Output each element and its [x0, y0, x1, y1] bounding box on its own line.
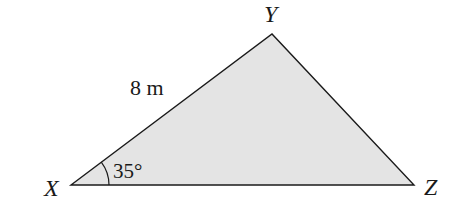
side-label-xy: 8 m: [130, 75, 164, 100]
vertex-label-x: X: [43, 175, 60, 201]
triangle-diagram: X Y Z 8 m 35°: [0, 0, 461, 207]
vertex-label-z: Z: [424, 174, 438, 200]
triangle-svg: X Y Z 8 m 35°: [0, 0, 461, 207]
vertex-label-y: Y: [264, 1, 280, 27]
angle-label-x: 35°: [113, 159, 142, 183]
